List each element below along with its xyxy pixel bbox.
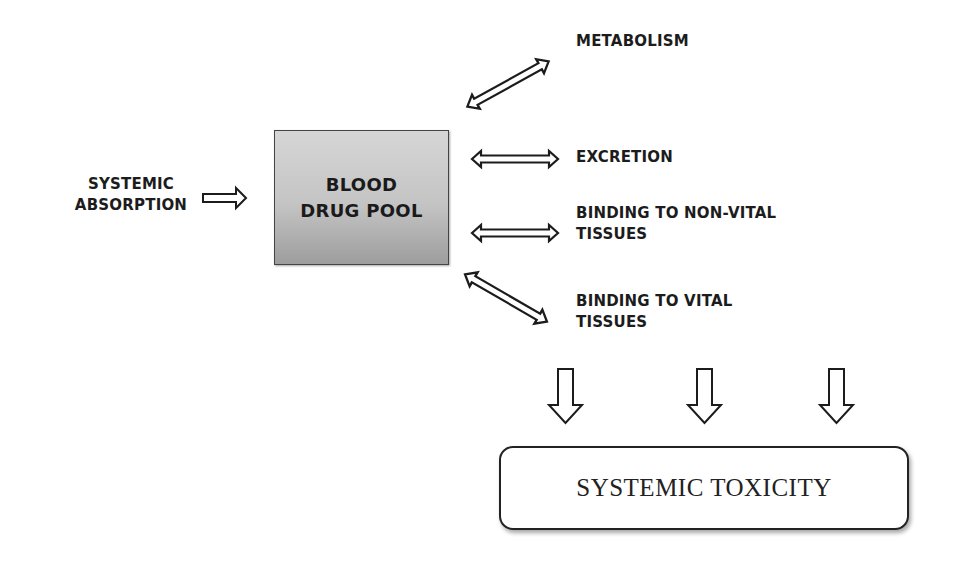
arrows-layer <box>0 0 959 566</box>
double-arrow-non-vital-icon <box>472 225 558 241</box>
double-arrow-vital-icon <box>461 267 551 328</box>
right-arrow-icon <box>203 188 246 208</box>
double-arrow-excretion-icon <box>472 151 558 167</box>
down-arrow-icon <box>688 369 721 423</box>
double-arrow-metabolism-icon <box>464 54 553 113</box>
down-arrow-icon <box>820 369 853 423</box>
down-arrow-icon <box>549 369 582 423</box>
